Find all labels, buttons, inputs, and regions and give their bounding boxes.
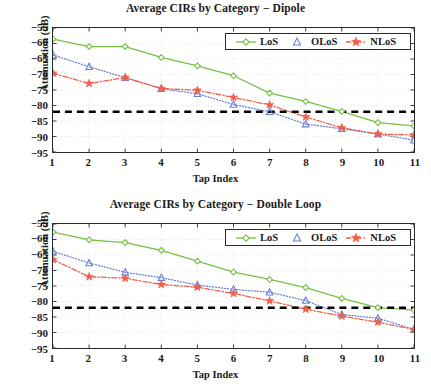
x-tick-label: 7 xyxy=(258,353,282,364)
y-tick-label: −55 xyxy=(14,22,48,33)
x-tick-label: 11 xyxy=(403,353,427,364)
y-tick-label: −65 xyxy=(14,249,48,260)
x-tick-label: 2 xyxy=(76,353,100,364)
x-tick-label: 1 xyxy=(40,353,64,364)
legend-label-olos-2: OLoS xyxy=(311,232,337,243)
y-tick-label: −90 xyxy=(14,132,48,143)
y-tick-label: −90 xyxy=(14,328,48,339)
x-tick-label: 6 xyxy=(222,157,246,168)
y-tick-label: −55 xyxy=(14,218,48,229)
legend-item-los[interactable]: LoS xyxy=(235,36,278,48)
x-tick-label: 10 xyxy=(367,157,391,168)
legend-label-olos: OLoS xyxy=(311,36,337,47)
legend-marker-olos-icon xyxy=(286,36,308,48)
y-tick-label: −85 xyxy=(14,116,48,127)
chart-figure-dipole: Average CIRs by Category − Dipole Attenu… xyxy=(0,0,431,196)
x-tick-label: 11 xyxy=(403,157,427,168)
x-tick-label: 6 xyxy=(222,353,246,364)
legend-item-los-2[interactable]: LoS xyxy=(235,232,278,244)
y-tick-label: −65 xyxy=(14,53,48,64)
legend-marker-los-icon xyxy=(235,232,257,244)
x-tick-label: 1 xyxy=(40,157,64,168)
legend-item-nlos[interactable]: NLoS xyxy=(345,36,396,48)
legend-item-nlos-2[interactable]: NLoS xyxy=(345,232,396,244)
legend-marker-los-icon xyxy=(235,36,257,48)
x-tick-label: 8 xyxy=(294,157,318,168)
legend-double-loop: LoS OLoS NLoS xyxy=(225,229,411,246)
x-tick-label: 5 xyxy=(185,353,209,364)
x-tick-label: 10 xyxy=(367,353,391,364)
chart-figure-double-loop: Average CIRs by Category − Double Loop A… xyxy=(0,196,431,392)
legend-marker-nlos-icon xyxy=(345,232,367,244)
x-tick-label: 2 xyxy=(76,157,100,168)
x-tick-label: 3 xyxy=(113,353,137,364)
y-tick-label: −85 xyxy=(14,312,48,323)
y-tick-label: −70 xyxy=(14,69,48,80)
legend-label-los-2: LoS xyxy=(260,232,278,243)
x-axis-label: Tap Index xyxy=(0,173,431,184)
y-tick-label: −75 xyxy=(14,85,48,96)
page-title: Average CIRs by Category − Dipole xyxy=(0,2,431,14)
legend-label-nlos: NLoS xyxy=(370,36,396,47)
x-tick-label: 3 xyxy=(113,157,137,168)
x-tick-label: 5 xyxy=(185,157,209,168)
legend-marker-olos-icon xyxy=(286,232,308,244)
x-tick-label: 8 xyxy=(294,353,318,364)
x-tick-label: 9 xyxy=(330,353,354,364)
legend-marker-nlos-icon xyxy=(345,36,367,48)
x-tick-label: 4 xyxy=(149,353,173,364)
legend-label-nlos-2: NLoS xyxy=(370,232,396,243)
x-axis-label-2: Tap Index xyxy=(0,369,431,380)
y-tick-label: −60 xyxy=(14,37,48,48)
legend-dipole: LoS OLoS NLoS xyxy=(225,33,411,50)
page-title-2: Average CIRs by Category − Double Loop xyxy=(0,198,431,210)
y-tick-label: −80 xyxy=(14,100,48,111)
y-tick-label: −75 xyxy=(14,281,48,292)
x-tick-label: 4 xyxy=(149,157,173,168)
legend-label-los: LoS xyxy=(260,36,278,47)
y-tick-label: −60 xyxy=(14,233,48,244)
y-tick-label: −80 xyxy=(14,296,48,307)
y-tick-label: −70 xyxy=(14,265,48,276)
legend-item-olos[interactable]: OLoS xyxy=(286,36,337,48)
x-tick-label: 9 xyxy=(330,157,354,168)
legend-item-olos-2[interactable]: OLoS xyxy=(286,232,337,244)
x-tick-label: 7 xyxy=(258,157,282,168)
